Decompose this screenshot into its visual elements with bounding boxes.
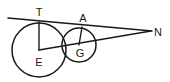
geometry-figure: T A N E G bbox=[0, 0, 170, 82]
vertex-label-G: G bbox=[76, 47, 85, 59]
vertex-label-E: E bbox=[35, 56, 42, 68]
vertex-label-A: A bbox=[79, 12, 87, 24]
geometry-figure-canvas: T A N E G bbox=[0, 0, 170, 82]
vertex-label-N: N bbox=[154, 26, 162, 38]
vertex-label-T: T bbox=[36, 6, 43, 18]
center-line-E-through-G-to-N bbox=[39, 31, 151, 50]
